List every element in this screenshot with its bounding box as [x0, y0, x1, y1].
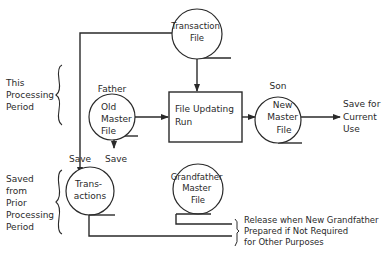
- son-label: Son: [270, 81, 287, 91]
- grandfather-release-line: [176, 214, 232, 224]
- father-label: Father: [98, 84, 127, 94]
- save-transactions-label: Save: [69, 154, 92, 164]
- save-for-current-use-label: Save for Current Use: [343, 99, 383, 134]
- brace-prior-period: [56, 170, 62, 234]
- gfs-diagram: This Processing Period Saved from Prior …: [0, 0, 386, 253]
- prior-period-label: Saved from Prior Processing Period: [6, 174, 57, 232]
- release-note: Release when New Grandfather Prepared if…: [244, 215, 381, 247]
- save-old-master-label: Save: [105, 154, 128, 164]
- this-period-label: This Processing Period: [5, 78, 57, 112]
- release-brace: [235, 219, 239, 246]
- transactions-release-line: [89, 215, 232, 236]
